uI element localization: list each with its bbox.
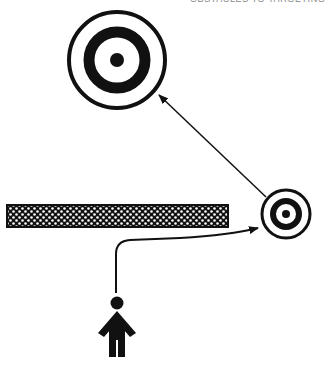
- person-icon: [98, 297, 136, 358]
- arrow-to-far-target: [159, 95, 266, 197]
- far-target: [69, 12, 165, 108]
- arrow-to-near-target: [116, 228, 258, 293]
- obstacle-barrier: [7, 205, 228, 227]
- near-target: [262, 190, 310, 238]
